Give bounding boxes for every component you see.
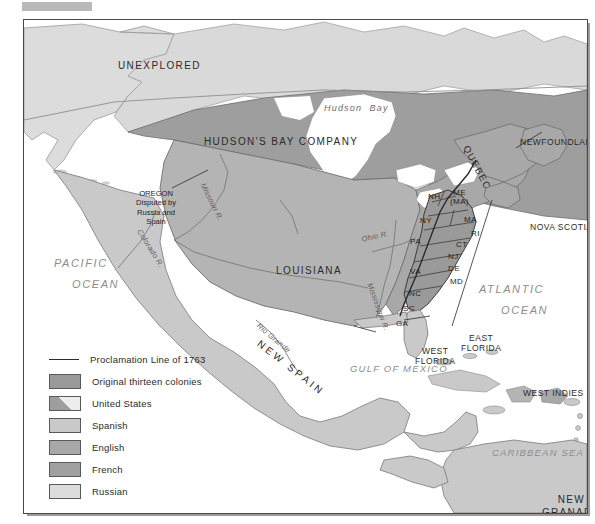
map-legend: Proclamation Line of 1763 Original thirt…	[49, 348, 264, 502]
label-east-florida: EAST FLORIDA	[461, 333, 501, 353]
legend-swatch-spanish	[49, 418, 81, 433]
label-west-indies: WEST INDIES	[523, 389, 584, 399]
map-figure: UNEXPLORED HUDSON'S BAY COMPANY Hudson B…	[0, 0, 595, 524]
legend-item-french: French	[49, 458, 264, 480]
legend-swatch-original-thirteen-colonies	[49, 374, 81, 389]
label-newfoundland: NEWFOUNDLAND	[520, 138, 588, 148]
legend-item-english: English	[49, 436, 264, 458]
label-atlantic-ocean-line1: ATLANTIC	[479, 283, 544, 295]
legend-label-french: French	[92, 464, 123, 475]
label-colony-sc: SC	[403, 305, 415, 314]
label-new-granada: NEW GRANADA	[542, 493, 588, 514]
map-canvas: UNEXPLORED HUDSON'S BAY COMPANY Hudson B…	[24, 20, 587, 513]
legend-swatch-french	[49, 462, 81, 477]
legend-item-russian: Russian	[49, 480, 264, 502]
legend-swatch-english	[49, 440, 81, 455]
legend-label-english: English	[92, 442, 125, 453]
label-colony-va: VA	[410, 268, 421, 277]
label-gulf-of-mexico: GULF OF MEXICO	[350, 364, 448, 375]
label-colony-nc: NC	[409, 290, 421, 299]
legend-item-united-states: United States	[49, 392, 264, 414]
label-unexplored: UNEXPLORED	[118, 60, 201, 71]
label-pacific-ocean-line1: PACIFIC	[54, 257, 108, 269]
label-oregon-note: OREGON Disputed by Russia and Spain	[136, 189, 176, 227]
legend-item-spanish: Spanish	[49, 414, 264, 436]
legend-swatch-proclamation-line	[49, 353, 79, 366]
legend-swatch-russian	[49, 484, 81, 499]
label-colony-ri: RI	[471, 230, 480, 239]
label-colony-ma: MA	[464, 216, 477, 225]
legend-label-spanish: Spanish	[92, 420, 128, 431]
top-grey-tab	[22, 2, 92, 11]
label-colony-ct: CT	[456, 241, 467, 250]
label-nova-scotia: NOVA SCOTIA	[530, 223, 588, 233]
legend-label-proclamation-line: Proclamation Line of 1763	[90, 354, 205, 365]
legend-item-proclamation-line: Proclamation Line of 1763	[49, 348, 264, 370]
legend-item-original-thirteen-colonies: Original thirteen colonies	[49, 370, 264, 392]
label-colony-de: DE	[448, 265, 460, 274]
label-caribbean-sea: CARIBBEAN SEA	[492, 448, 584, 459]
label-hudsons-bay-company: HUDSON'S BAY COMPANY	[204, 136, 358, 147]
legend-label-russian: Russian	[92, 486, 128, 497]
label-louisiana: LOUISIANA	[276, 265, 342, 276]
label-colony-ny: NY	[420, 217, 432, 226]
label-colony-nj: NJ	[448, 253, 459, 262]
label-colony-md: MD	[450, 278, 463, 287]
label-colony-me-ma: ME (MA)	[450, 188, 469, 206]
legend-label-united-states: United States	[92, 398, 152, 409]
label-pacific-ocean-line2: OCEAN	[72, 278, 119, 290]
label-colony-ga: GA	[396, 320, 408, 329]
legend-label-original-thirteen-colonies: Original thirteen colonies	[92, 376, 202, 387]
label-atlantic-ocean-line2: OCEAN	[501, 304, 548, 316]
legend-swatch-united-states	[49, 396, 81, 411]
label-colony-pa: PA	[410, 238, 421, 247]
map-frame: UNEXPLORED HUDSON'S BAY COMPANY Hudson B…	[23, 19, 588, 514]
label-colony-nh: NH	[428, 193, 440, 202]
label-hudson-bay: Hudson Bay	[324, 103, 389, 113]
